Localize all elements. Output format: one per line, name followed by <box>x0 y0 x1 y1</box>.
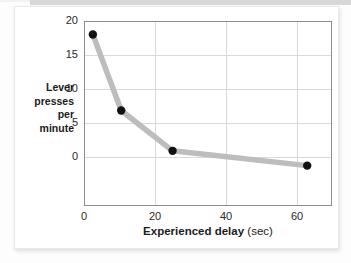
x-tick-label-0: 0 <box>64 210 104 223</box>
y-tick-0: 0 <box>56 151 78 162</box>
y-axis-label: Lever presses per minute <box>8 81 74 135</box>
y-axis-label-line-2: presses <box>8 95 74 109</box>
x-tick-0: 0 <box>64 210 104 223</box>
x-tick-label-40: 40 <box>206 210 246 223</box>
y-tick-20: 20 <box>56 15 78 26</box>
x-tick-label-20: 20 <box>135 210 175 223</box>
x-tick-40: 40 <box>206 210 246 223</box>
y-tick-label-20: 20 <box>56 15 78 26</box>
x-axis-label-unit: (sec) <box>247 225 273 237</box>
x-axis-label-main: Experienced delay <box>143 225 244 237</box>
plot-area-frame <box>84 21 332 206</box>
x-axis-label: Experienced delay (sec) <box>84 225 332 237</box>
top-gray-band <box>30 0 351 5</box>
figure-root: 20 15 10 5 0 0 20 40 60 Lever presses pe… <box>0 0 351 263</box>
y-axis-label-line-1: Lever <box>8 81 74 95</box>
y-tick-label-0: 0 <box>56 151 78 162</box>
x-tick-20: 20 <box>135 210 175 223</box>
y-tick-15: 15 <box>56 49 78 60</box>
x-tick-label-60: 60 <box>277 210 317 223</box>
y-tick-label-15: 15 <box>56 49 78 60</box>
y-axis-label-line-4: minute <box>8 122 74 136</box>
y-axis-label-line-3: per <box>8 108 74 122</box>
x-tick-60: 60 <box>277 210 317 223</box>
